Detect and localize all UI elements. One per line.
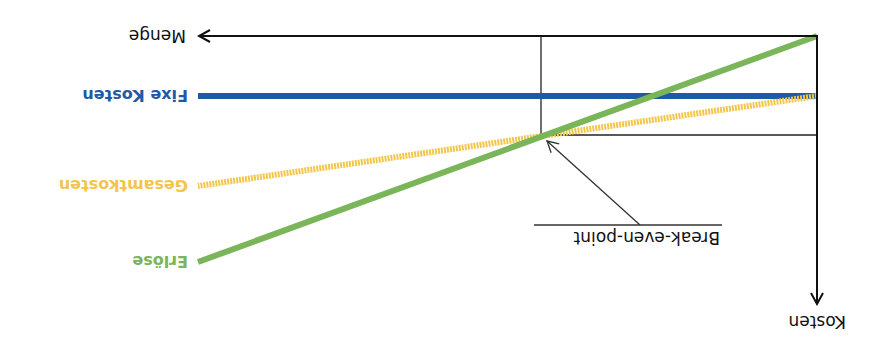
y-axis-label: Kosten [789, 312, 846, 332]
revenue-label: Erlöse [132, 252, 188, 271]
fixed-costs-label: Fixe Kosten [82, 86, 188, 105]
x-axis-label: Menge [129, 26, 186, 46]
total-costs-label: Gesamtkosten [59, 176, 188, 195]
break-even-chart: Kosten Menge Fixe Kosten Gesamtkosten Er… [0, 0, 884, 340]
revenue-line [198, 36, 817, 262]
chart-svg: Kosten Menge Fixe Kosten Gesamtkosten Er… [0, 0, 884, 340]
break-even-pointer-arrow [547, 141, 640, 225]
break-even-label: Break-even-point [573, 228, 720, 248]
total-costs-line [198, 96, 817, 186]
